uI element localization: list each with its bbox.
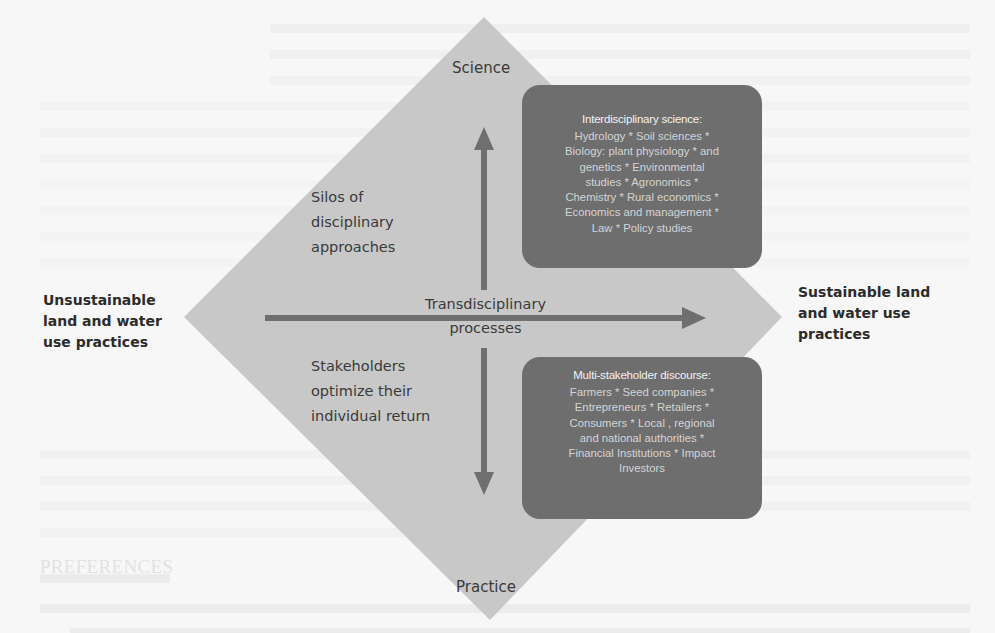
box-title: Multi-stakeholder discourse: <box>522 369 762 381</box>
unsustainable-label: Unsustainable land and water use practic… <box>43 290 162 353</box>
box-title: Interdisciplinary science: <box>522 113 762 125</box>
science-label: Science <box>452 58 510 79</box>
silos-label: Silos of disciplinary approaches <box>311 185 395 260</box>
sustainable-label: Sustainable land and water use practices <box>798 282 930 345</box>
multi-stakeholder-box: Multi-stakeholder discourse: Farmers * S… <box>522 357 762 519</box>
stakeholders-label: Stakeholders optimize their individual r… <box>311 354 430 429</box>
practice-label: Practice <box>456 577 516 598</box>
transdisciplinary-label: Transdisciplinary processes <box>398 291 573 339</box>
interdisciplinary-science-box: Interdisciplinary science: Hydrology * S… <box>522 85 762 268</box>
